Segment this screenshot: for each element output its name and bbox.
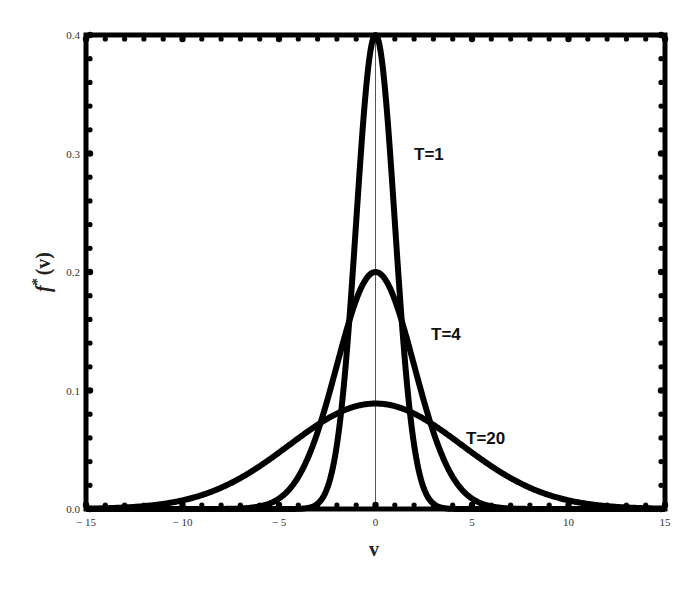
x-tick-bottom	[276, 502, 282, 508]
y-tick-left	[87, 246, 92, 251]
x-tick-bottom	[141, 502, 146, 507]
y-tick-right	[658, 317, 663, 322]
x-tick-bottom	[527, 502, 532, 507]
x-tick-bottom	[238, 502, 243, 507]
curve-label-t4: T=4	[431, 325, 461, 344]
x-tick-bottom	[354, 502, 359, 507]
x-tick-top	[141, 36, 146, 41]
x-tick-label: 0	[373, 516, 379, 528]
y-tick-left	[87, 222, 92, 227]
y-tick-left	[87, 104, 92, 109]
y-tick-right	[658, 150, 664, 156]
x-tick-top	[431, 36, 436, 41]
y-tick-left	[87, 80, 92, 85]
x-tick-label: − 15	[76, 516, 96, 528]
x-tick-top	[547, 36, 552, 41]
y-tick-right	[658, 483, 663, 488]
x-tick-top	[296, 36, 301, 41]
x-tick-label: 15	[660, 516, 672, 528]
curve-label-t20: T=20	[466, 429, 505, 448]
y-tick-right	[658, 459, 663, 464]
x-tick-bottom	[469, 502, 475, 508]
y-tick-label: 0.0	[66, 503, 80, 515]
x-tick-top	[585, 36, 590, 41]
y-tick-right	[658, 175, 663, 180]
x-tick-top	[103, 36, 108, 41]
x-tick-top	[315, 36, 320, 41]
y-tick-right	[658, 341, 663, 346]
chart: − 15− 10− 50510150.00.10.20.30.4 v f*(v)…	[0, 0, 695, 589]
x-tick-top	[179, 36, 185, 42]
y-tick-left	[87, 341, 92, 346]
x-tick-bottom	[199, 502, 204, 507]
x-tick-bottom	[431, 502, 436, 507]
x-tick-bottom	[179, 502, 185, 508]
x-tick-top	[605, 36, 610, 41]
y-tick-right	[658, 56, 663, 61]
svg-text:f*(v): f*(v)	[30, 252, 55, 292]
y-tick-left	[87, 435, 92, 440]
y-tick-left	[87, 56, 92, 61]
x-tick-top	[489, 36, 494, 41]
y-tick-right	[658, 506, 664, 512]
y-tick-label: 0.3	[66, 148, 80, 160]
y-axis-title-star: *	[30, 278, 45, 285]
x-tick-label: − 5	[272, 516, 287, 528]
x-tick-bottom	[392, 502, 397, 507]
x-tick-top	[392, 36, 397, 41]
y-tick-right	[658, 80, 663, 85]
y-tick-right	[658, 293, 663, 298]
x-tick-top	[354, 36, 359, 41]
y-tick-left	[87, 127, 92, 132]
y-tick-left	[87, 506, 93, 512]
y-axis-title: f*(v)	[30, 252, 55, 292]
x-tick-bottom	[450, 502, 455, 507]
x-tick-bottom	[372, 502, 378, 508]
x-tick-bottom	[624, 502, 629, 507]
x-tick-bottom	[585, 502, 590, 507]
y-tick-right	[658, 246, 663, 251]
x-tick-bottom	[605, 502, 610, 507]
x-tick-label: − 10	[173, 516, 193, 528]
y-tick-left	[87, 293, 92, 298]
y-tick-right	[658, 127, 663, 132]
y-tick-right	[658, 387, 664, 393]
y-tick-right	[658, 412, 663, 417]
y-tick-label: 0.1	[66, 385, 80, 397]
x-tick-label: 5	[469, 516, 475, 528]
x-tick-bottom	[296, 502, 301, 507]
x-tick-top	[643, 36, 648, 41]
x-tick-top	[565, 36, 571, 42]
x-tick-bottom	[122, 502, 127, 507]
x-tick-top	[219, 36, 224, 41]
y-tick-label: 0.4	[66, 29, 80, 41]
y-tick-left	[87, 483, 92, 488]
x-tick-bottom	[565, 502, 571, 508]
y-tick-right	[658, 104, 663, 109]
y-tick-right	[658, 364, 663, 369]
y-tick-left	[87, 317, 92, 322]
y-tick-left	[87, 412, 92, 417]
x-tick-top	[257, 36, 262, 41]
x-tick-bottom	[412, 502, 417, 507]
x-tick-bottom	[103, 502, 108, 507]
y-tick-right	[658, 32, 664, 38]
x-tick-top	[334, 36, 339, 41]
y-tick-left	[87, 269, 93, 275]
y-tick-right	[658, 198, 663, 203]
x-tick-bottom	[508, 502, 513, 507]
x-tick-top	[276, 36, 282, 42]
x-tick-bottom	[257, 502, 262, 507]
x-tick-bottom	[334, 502, 339, 507]
y-tick-left	[87, 198, 92, 203]
x-tick-bottom	[161, 502, 166, 507]
y-tick-right	[658, 222, 663, 227]
x-tick-top	[508, 36, 513, 41]
y-tick-label: 0.2	[66, 266, 80, 278]
y-tick-left	[87, 32, 93, 38]
y-tick-left	[87, 364, 92, 369]
curve-label-t1: T=1	[414, 145, 444, 164]
x-tick-top	[199, 36, 204, 41]
y-tick-left	[87, 150, 93, 156]
x-tick-top	[161, 36, 166, 41]
